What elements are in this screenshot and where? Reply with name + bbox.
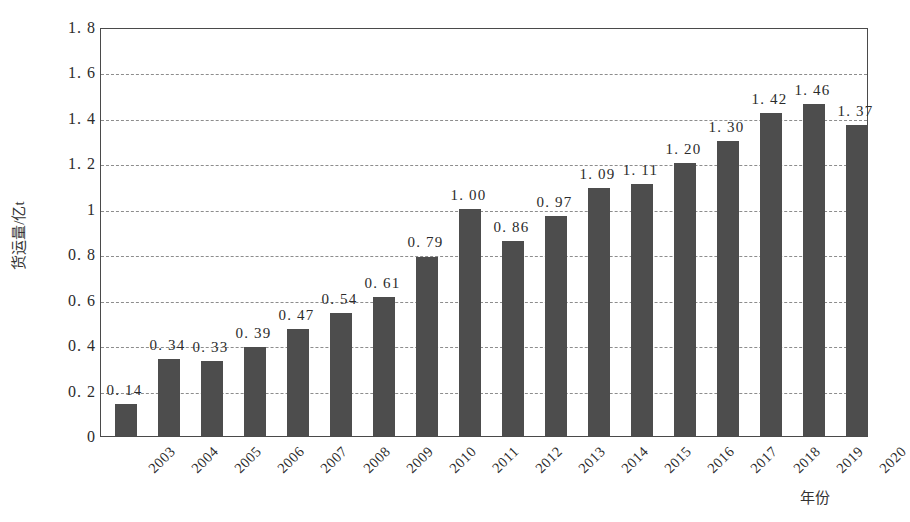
x-axis-tick-label: 2018 [790, 443, 824, 477]
bar-value-label: 0. 61 [365, 275, 401, 292]
bar [545, 216, 567, 436]
bar-value-label: 0. 97 [537, 194, 573, 211]
gridline [101, 256, 867, 257]
y-axis-tick-label: 1. 2 [38, 155, 96, 173]
x-axis-tick-label: 2009 [403, 443, 437, 477]
bar-value-label: 0. 14 [107, 382, 143, 399]
gridline [101, 74, 867, 75]
bar-value-label: 1. 30 [709, 119, 745, 136]
bar [803, 104, 825, 436]
gridline [101, 211, 867, 212]
bar-value-label: 1. 11 [623, 162, 658, 179]
x-axis-tick-label: 2011 [488, 443, 522, 477]
x-axis-tick-label: 2016 [704, 443, 738, 477]
bar-value-label: 0. 34 [150, 337, 186, 354]
bar-value-label: 0. 33 [193, 339, 229, 356]
bar-value-label: 0. 79 [408, 234, 444, 251]
bar [502, 241, 524, 436]
y-axis-tick-label: 1 [38, 201, 96, 219]
y-axis-tick-label: 0. 6 [38, 292, 96, 310]
x-axis-tick-label: 2010 [446, 443, 480, 477]
y-axis-tick-label: 1. 8 [38, 19, 96, 37]
x-axis-title: 年份 [800, 486, 830, 507]
y-axis-tick-label: 0. 8 [38, 246, 96, 264]
x-axis-tick-label: 2019 [833, 443, 867, 477]
bar [416, 257, 438, 437]
bar-value-label: 1. 09 [580, 166, 616, 183]
plot-area [100, 28, 868, 437]
bar [201, 361, 223, 436]
bar [674, 163, 696, 436]
bar [846, 125, 868, 436]
y-axis-tick-label: 1. 4 [38, 110, 96, 128]
x-axis-tick-label: 2006 [274, 443, 308, 477]
y-axis-title-text: 货运量/亿t [7, 201, 28, 269]
x-axis-tick-label: 2020 [876, 443, 910, 477]
x-axis-tick-label: 2013 [575, 443, 609, 477]
bar [115, 404, 137, 436]
bar [760, 113, 782, 436]
bar-value-label: 0. 54 [322, 291, 358, 308]
y-axis-tick-label: 1. 6 [38, 64, 96, 82]
x-axis-tick-label: 2007 [317, 443, 351, 477]
bar [717, 141, 739, 436]
gridline [101, 120, 867, 121]
y-axis-title: 货运量/亿t [2, 150, 32, 320]
y-axis-tick-label: 0. 2 [38, 383, 96, 401]
bar-value-label: 0. 47 [279, 307, 315, 324]
bar-value-label: 1. 42 [752, 91, 788, 108]
bar-value-label: 1. 00 [451, 187, 487, 204]
bar [631, 184, 653, 436]
bar-value-label: 0. 86 [494, 219, 530, 236]
bar [158, 359, 180, 436]
bar [373, 297, 395, 436]
bar [330, 313, 352, 436]
bar [588, 188, 610, 436]
x-axis-tick-label: 2014 [618, 443, 652, 477]
x-axis-tick-label: 2015 [661, 443, 695, 477]
bar [244, 347, 266, 436]
x-axis-tick-label: 2005 [231, 443, 265, 477]
x-axis-tick-label: 2008 [360, 443, 394, 477]
bar-value-label: 1. 37 [838, 103, 874, 120]
bar [287, 329, 309, 436]
bar-value-label: 1. 46 [795, 82, 831, 99]
x-axis-tick-label: 2012 [532, 443, 566, 477]
y-axis-tick-label: 0 [38, 428, 96, 446]
x-axis-tick-label: 2017 [747, 443, 781, 477]
x-axis-tick-label: 2003 [145, 443, 179, 477]
bar [459, 209, 481, 436]
bar-value-label: 0. 39 [236, 325, 272, 342]
gridline [101, 165, 867, 166]
y-axis-tick-label: 0. 4 [38, 337, 96, 355]
gridline [101, 302, 867, 303]
y-axis-tick-labels: 00. 20. 40. 60. 811. 21. 41. 61. 8 [30, 0, 96, 522]
bar-value-label: 1. 20 [666, 141, 702, 158]
x-axis-tick-label: 2004 [188, 443, 222, 477]
